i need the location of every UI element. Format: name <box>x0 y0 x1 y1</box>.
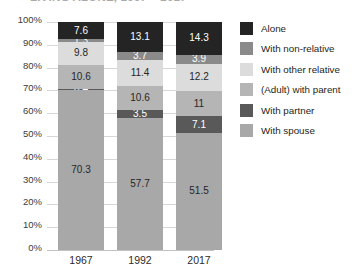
bar-segment[interactable]: 13.1 <box>117 22 163 52</box>
bar-2017[interactable]: 51.57.11112.23.914.3 <box>176 22 222 250</box>
legend-item-with-non-relative[interactable]: With non-relative <box>240 39 352 60</box>
y-axis-tick-label: 70% <box>23 83 42 93</box>
y-axis-tick-label: 0% <box>28 243 42 253</box>
y-axis-tick-label: 80% <box>23 61 42 71</box>
bar-segment[interactable]: 1.3 <box>58 39 104 42</box>
legend-item-with-partner[interactable]: With partner <box>240 100 352 121</box>
y-axis-tick-label: 50% <box>23 129 42 139</box>
chart-title-cropped: LIVING ALONE, 1967 – 2017 <box>30 0 240 3</box>
bar-segment[interactable]: 51.5 <box>176 133 222 250</box>
legend-label: With other relative <box>261 64 340 75</box>
legend-label: (Adult) with parent <box>261 84 341 95</box>
bar-value-label: 11.4 <box>131 68 150 78</box>
bar-segment[interactable]: 7.1 <box>176 116 222 132</box>
y-axis-tick-label: 60% <box>23 106 42 116</box>
bar-segment[interactable]: 3.7 <box>117 52 163 60</box>
bar-segment[interactable]: 0.4 <box>58 89 104 90</box>
x-axis-label-2017: 2017 <box>169 254 229 266</box>
legend-label: With non-relative <box>261 43 335 54</box>
bar-value-label: 3.9 <box>192 55 206 64</box>
bar-value-label: 3.7 <box>133 52 147 60</box>
y-axis-tick-label: 90% <box>23 38 42 48</box>
bar-segment[interactable]: 11 <box>176 91 222 116</box>
legend-item-with-other-relative[interactable]: With other relative <box>240 59 352 80</box>
legend-label: With partner <box>261 105 314 116</box>
legend-item-alone[interactable]: Alone <box>240 18 352 39</box>
legend-swatch-icon <box>240 104 253 117</box>
bar-segment[interactable]: 9.8 <box>58 42 104 64</box>
bar-1992[interactable]: 57.73.510.611.43.713.1 <box>117 22 163 250</box>
bar-segment[interactable]: 11.4 <box>117 60 163 86</box>
y-axis-tick-label: 100% <box>18 15 42 25</box>
bar-value-label: 7.6 <box>74 26 88 36</box>
bar-segment[interactable]: 10.6 <box>117 86 163 110</box>
y-axis-tick-label: 40% <box>23 152 42 162</box>
chart-page: LIVING ALONE, 1967 – 2017 100%90%80%70%6… <box>0 0 354 270</box>
bar-value-label: 13.1 <box>130 32 149 42</box>
bar-value-label: 11 <box>194 99 204 109</box>
legend-swatch-icon <box>240 63 253 76</box>
page-title: LIVING ALONE, 1967 – 2017 <box>30 0 240 3</box>
gridline <box>47 250 214 251</box>
legend-label: With spouse <box>261 125 315 136</box>
bar-segment[interactable]: 70.3 <box>58 90 104 250</box>
bar-segment[interactable]: 10.6 <box>58 65 104 89</box>
bar-value-label: 1.3 <box>74 39 88 42</box>
x-axis-label-1967: 1967 <box>51 254 111 266</box>
bar-value-label: 0.4 <box>74 89 88 90</box>
legend-swatch-icon <box>240 124 253 137</box>
chart-legend: AloneWith non-relativeWith other relativ… <box>240 18 352 141</box>
legend-swatch-icon <box>240 42 253 55</box>
y-axis-tick-label: 20% <box>23 197 42 207</box>
bar-value-label: 12.2 <box>189 72 208 82</box>
legend-item-adult-with-parent[interactable]: (Adult) with parent <box>240 80 352 101</box>
bar-segment[interactable]: 3.5 <box>117 110 163 118</box>
y-axis-tick-label: 30% <box>23 175 42 185</box>
bar-segment[interactable]: 3.9 <box>176 55 222 64</box>
bar-value-label: 51.5 <box>189 186 208 196</box>
bar-value-label: 57.7 <box>130 179 149 189</box>
bar-value-label: 10.6 <box>130 93 149 103</box>
legend-item-with-spouse[interactable]: With spouse <box>240 121 352 142</box>
bar-value-label: 10.6 <box>71 72 90 82</box>
legend-swatch-icon <box>240 22 253 35</box>
legend-label: Alone <box>261 23 286 34</box>
bar-segment[interactable]: 57.7 <box>117 118 163 250</box>
bar-value-label: 7.1 <box>192 120 206 130</box>
bar-value-label: 9.8 <box>74 48 88 58</box>
bar-1967[interactable]: 70.30.410.69.81.37.6 <box>58 22 104 250</box>
legend-swatch-icon <box>240 83 253 96</box>
bar-value-label: 14.3 <box>189 33 208 43</box>
bar-value-label: 3.5 <box>133 110 147 118</box>
y-axis-tick-label: 10% <box>23 220 42 230</box>
bar-value-label: 70.3 <box>71 165 90 175</box>
bar-segment[interactable]: 12.2 <box>176 64 222 92</box>
stacked-bar-chart: 100%90%80%70%60%50%40%30%20%10%0%70.30.4… <box>0 8 222 256</box>
x-axis-label-1992: 1992 <box>110 254 170 266</box>
bar-segment[interactable]: 14.3 <box>176 22 222 55</box>
bar-segment[interactable]: 7.6 <box>58 22 104 39</box>
